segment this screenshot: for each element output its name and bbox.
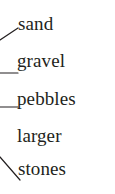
label-gravel: gravel: [17, 51, 65, 70]
label-sand: sand: [18, 14, 53, 33]
annotation-figure: sand gravel pebbles larger stones: [0, 0, 115, 194]
label-pebbles: pebbles: [17, 89, 76, 108]
label-larger-stones-line1: larger: [17, 125, 62, 146]
label-larger-stones: larger stones: [17, 126, 66, 178]
label-larger-stones-line2: stones: [18, 159, 66, 178]
leader-line-sand: [0, 28, 18, 40]
